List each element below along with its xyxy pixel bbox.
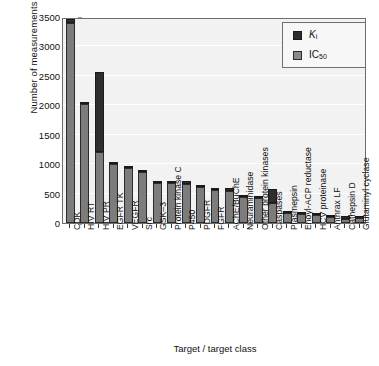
legend-label-ic50: IC50 — [309, 49, 327, 60]
x-tick-label: Caspases — [275, 191, 284, 230]
legend-swatch-ki — [293, 31, 302, 40]
legend-swatch-ic50 — [293, 51, 302, 60]
y-tick-label: 500 — [22, 190, 60, 200]
x-tick-label: GSK–3 — [159, 202, 168, 230]
x-tick-label: Glutaminyl cyclase — [362, 157, 371, 230]
x-tick-label: AChE/BuChE — [232, 177, 241, 230]
y-tick-label: 2500 — [22, 72, 60, 82]
x-tick-label: Plasmepsin — [290, 185, 299, 230]
y-tick-label: 3000 — [22, 42, 60, 52]
x-tick-label: FGFR — [217, 206, 226, 230]
bar-segment-ki — [80, 102, 89, 104]
x-tick-label: Src — [145, 217, 154, 230]
y-axis-tick-labels: 0500100015002000250030003500 — [20, 0, 60, 366]
x-tick-label: Cathepsin D — [348, 182, 357, 230]
bar-segment-ki — [95, 72, 104, 153]
chart-figure: Number of measurements 05001000150020002… — [0, 0, 379, 366]
x-tick-label: Neuraminidase — [246, 172, 255, 230]
x-tick-label: EGFR TK — [116, 193, 125, 230]
bar-segment-ki — [109, 162, 118, 164]
bar-segment-ki — [211, 188, 220, 190]
bar — [66, 19, 75, 223]
x-axis-title: Target / target class — [60, 343, 370, 354]
x-tick-label: HIV RT — [87, 202, 96, 230]
chart-legend: Ki IC50 — [282, 22, 366, 68]
x-tick-label: HIV PR — [102, 201, 111, 230]
bar-segment-ki — [153, 181, 162, 183]
x-tick-label: CDK — [73, 212, 82, 230]
x-tick-label: P450 — [188, 210, 197, 230]
bar-segment-ki — [196, 185, 205, 187]
bar-segment-ki — [66, 19, 75, 23]
x-tick-label: Other protein kinases — [261, 147, 270, 230]
bar-segment-ki — [124, 166, 133, 168]
x-tick-label: Anthrax LF — [333, 187, 342, 230]
legend-item-ki: Ki — [293, 28, 317, 42]
x-axis-tick-labels: CDKHIV RTHIV PREGFR TKVEGFRSrcGSK–3Prote… — [62, 228, 366, 340]
legend-item-ic50: IC50 — [293, 48, 327, 62]
y-tick-label: 1500 — [22, 131, 60, 141]
y-tick-label: 0 — [22, 219, 60, 229]
bar-segment-ki — [138, 170, 147, 172]
y-tick-label: 2000 — [22, 101, 60, 111]
bar-segment-ic50 — [66, 23, 75, 223]
legend-label-ki: Ki — [309, 29, 317, 40]
x-tick-label: PDGFR — [203, 200, 212, 230]
y-tick-label: 1000 — [22, 160, 60, 170]
x-tick-label: Enoyl-ACP reductase — [304, 147, 313, 230]
y-tick-label: 3500 — [22, 13, 60, 23]
x-tick-label: HCV proteinase — [319, 169, 328, 230]
x-tick-label: Protein kinase C — [174, 166, 183, 230]
x-tick-label: VEGFR — [131, 200, 140, 230]
